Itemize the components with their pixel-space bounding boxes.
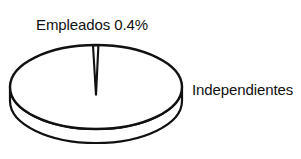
pie-label-empleados: Empleados 0.4% [36, 17, 148, 32]
pie-label-independientes: Independientes [192, 82, 293, 97]
pie-chart-figure: Empleados 0.4% Independientes [0, 0, 301, 159]
